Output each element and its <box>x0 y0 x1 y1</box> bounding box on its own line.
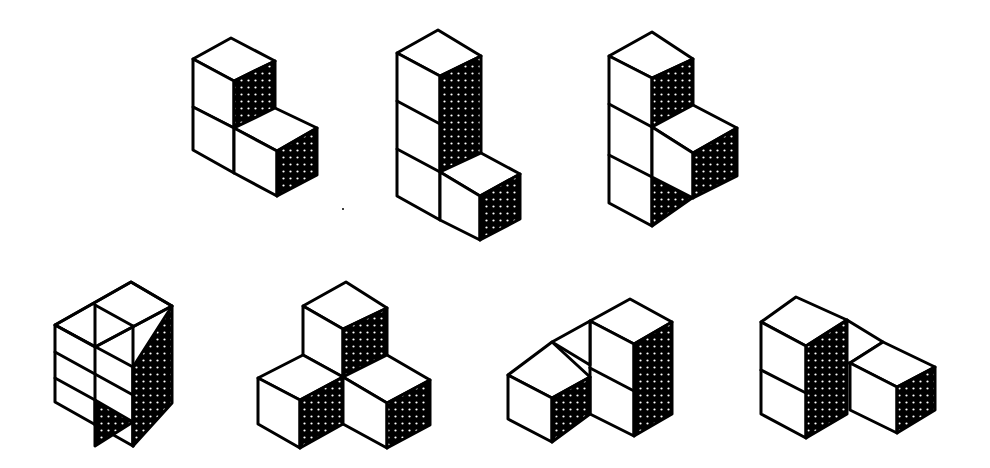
piece-4 <box>55 282 172 446</box>
piece-6 <box>508 299 672 442</box>
piece-7 <box>761 297 935 438</box>
ink-speck <box>342 208 344 210</box>
piece-3 <box>609 32 737 226</box>
piece-1 <box>193 38 317 196</box>
piece-5 <box>258 282 430 448</box>
polycube-figure <box>0 0 990 468</box>
piece-2 <box>397 30 520 240</box>
